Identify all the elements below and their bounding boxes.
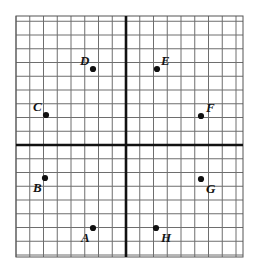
data-point-d — [90, 66, 96, 72]
point-label-h: H — [161, 231, 171, 244]
data-point-h — [153, 225, 159, 231]
data-point-g — [198, 176, 204, 182]
point-label-f: F — [206, 101, 215, 114]
point-label-g: G — [206, 182, 215, 195]
data-point-e — [154, 66, 160, 72]
data-point-a — [90, 225, 96, 231]
grid-canvas — [0, 0, 260, 274]
data-point-b — [42, 175, 48, 181]
point-label-c: C — [33, 100, 42, 113]
coordinate-grid-figure: ABCDEFGH — [0, 0, 260, 274]
point-label-a: A — [81, 231, 90, 244]
point-label-b: B — [33, 181, 42, 194]
data-point-c — [43, 112, 49, 118]
data-point-f — [198, 113, 204, 119]
figure-background — [0, 0, 260, 274]
point-label-d: D — [80, 54, 89, 67]
point-label-e: E — [161, 54, 170, 67]
